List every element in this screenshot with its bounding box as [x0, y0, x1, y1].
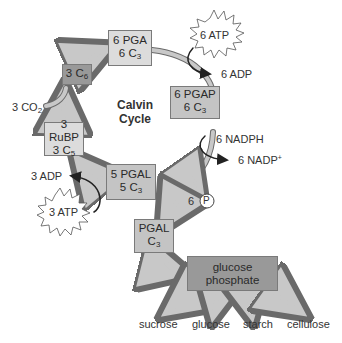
box-3-rubp: 3 RuBP 3 C5 [44, 122, 84, 156]
product-cellulose: cellulose [287, 318, 330, 330]
phosphate-symbol: P [203, 195, 210, 206]
nadp-label: 6 NADP+ [238, 154, 282, 166]
atp3-label: 3 ATP [49, 206, 78, 218]
product-glucose: glucose [192, 318, 230, 330]
co2-label: 3 CO2 [12, 101, 42, 115]
box-5-pgal: 5 PGAL 5 C3 [106, 164, 156, 200]
box-6-pga: 6 PGA 6 C3 [108, 30, 152, 66]
box-3-c6: 3 C6 [62, 64, 92, 85]
adp3-label: 3 ADP [31, 170, 62, 182]
product-starch: starch [243, 318, 273, 330]
box-glucose-phosphate: glucose phosphate [187, 256, 278, 291]
product-sucrose: sucrose [139, 318, 178, 330]
adp6-label: 6 ADP [221, 68, 252, 80]
nadph-label: 6 NADPH [216, 133, 264, 145]
cycle-center-label: Calvin Cycle [113, 98, 157, 126]
box-6-pgap: 6 PGAP 6 C3 [170, 86, 220, 119]
phosphate-count: 6 [188, 195, 194, 207]
box-pgal: PGAL C3 [134, 219, 174, 253]
atp6-label: 6 ATP [200, 29, 229, 41]
